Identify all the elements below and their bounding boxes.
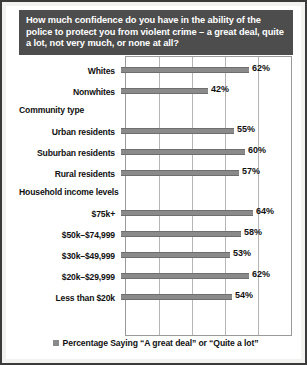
chart-row: Whites62%: [6, 60, 305, 81]
bar-value-label: 57%: [242, 166, 260, 176]
chart-row: Suburban residents60%: [6, 142, 305, 163]
bar: [121, 88, 208, 94]
bar-value-label: 54%: [235, 290, 253, 300]
chart-row: $30k–$49,99953%: [6, 245, 305, 266]
bar-track: 53%: [120, 245, 305, 266]
row-label: Whites: [6, 66, 120, 76]
legend-label: Percentage Saying “A great deal” or “Qui…: [63, 338, 259, 348]
chart-legend: Percentage Saying “A great deal” or “Qui…: [6, 338, 305, 348]
bar-track: 58%: [120, 224, 305, 245]
bar-track: 42%: [120, 81, 305, 102]
bar: [121, 128, 234, 134]
row-label: Suburban residents: [6, 148, 120, 158]
row-label: $50k–$74,999: [6, 230, 120, 240]
bar-value-label: 62%: [252, 269, 270, 279]
bar-value-label: 53%: [233, 248, 251, 258]
legend-swatch-icon: [53, 340, 59, 346]
chart-figure: How much confidence do you have in the a…: [0, 0, 307, 365]
bar: [121, 67, 249, 73]
bar-track: 64%: [120, 203, 305, 224]
chart-row: Urban residents55%: [6, 121, 305, 142]
chart-row: $50k–$74,99958%: [6, 224, 305, 245]
bar: [121, 210, 253, 216]
bar-track: 54%: [120, 287, 305, 308]
bar-value-label: 55%: [237, 124, 255, 134]
bar-track: 62%: [120, 60, 305, 81]
row-label: $75k+: [6, 209, 120, 219]
bar: [121, 273, 249, 279]
bar-value-label: 42%: [211, 84, 229, 94]
chart-row: Nonwhites42%: [6, 81, 305, 102]
row-label: $20k–$29,999: [6, 272, 120, 282]
bar-track: 62%: [120, 266, 305, 287]
row-label: Urban residents: [6, 127, 120, 137]
figure-inner: How much confidence do you have in the a…: [6, 6, 301, 359]
row-label: Less than $20k: [6, 293, 120, 303]
bar: [121, 231, 241, 237]
bar-value-label: 64%: [256, 206, 274, 216]
chart-row: $75k+64%: [6, 203, 305, 224]
group-header: Community type: [19, 105, 84, 115]
bar: [121, 252, 230, 258]
bar-track: 60%: [120, 142, 305, 163]
bar-value-label: 60%: [248, 145, 266, 155]
chart-title: How much confidence do you have in the a…: [19, 10, 293, 55]
chart-area: Whites62%Nonwhites42%Community typeUrban…: [6, 54, 305, 354]
group-header: Household income levels: [19, 187, 119, 197]
bar: [121, 294, 232, 300]
row-label: $30k–$49,999: [6, 251, 120, 261]
bar-track: 57%: [120, 163, 305, 184]
bar: [121, 149, 245, 155]
row-label: Nonwhites: [6, 87, 120, 97]
bar-track: 55%: [120, 121, 305, 142]
chart-row: Less than $20k54%: [6, 287, 305, 308]
bar-rows: Whites62%Nonwhites42%Community typeUrban…: [6, 56, 305, 334]
chart-row: Rural residents57%: [6, 163, 305, 184]
bar-value-label: 62%: [252, 63, 270, 73]
bar-value-label: 58%: [244, 227, 262, 237]
chart-row: $20k–$29,99962%: [6, 266, 305, 287]
row-label: Rural residents: [6, 169, 120, 179]
bar: [121, 170, 239, 176]
